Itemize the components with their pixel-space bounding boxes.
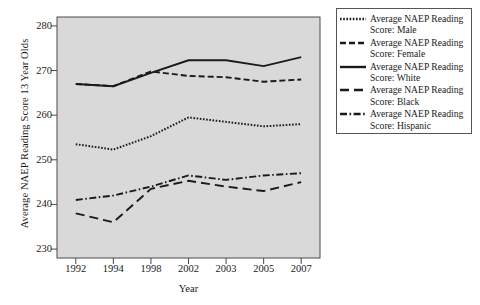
legend-item-male[interactable]: Average NAEP ReadingScore: Male (340, 13, 468, 36)
y-axis-tick-label: 260 (26, 110, 52, 121)
legend-item-label: Average NAEP ReadingScore: Female (370, 37, 463, 60)
chart-figure: Average NAEP Reading Score 13 Year Olds … (0, 0, 480, 305)
legend-item-label: Average NAEP ReadingScore: Black (370, 84, 463, 107)
legend-item-female[interactable]: Average NAEP ReadingScore: Female (340, 37, 468, 60)
legend-line-swatch-icon (340, 16, 366, 28)
legend-line-swatch-icon (340, 64, 366, 76)
legend-item-black[interactable]: Average NAEP ReadingScore: Black (340, 84, 468, 107)
legend-line-swatch-icon (340, 40, 366, 52)
legend-item-hispanic[interactable]: Average NAEP ReadingScore: Hispanic (340, 108, 468, 131)
y-axis-tick-label: 280 (26, 21, 52, 32)
legend-item-white[interactable]: Average NAEP ReadingScore: White (340, 61, 468, 84)
legend-line-swatch-icon (340, 111, 366, 123)
y-axis-tick-label: 250 (26, 155, 52, 166)
legend-line-swatch-icon (340, 87, 366, 99)
chart-legend: Average NAEP ReadingScore: MaleAverage N… (336, 8, 472, 134)
legend-item-label: Average NAEP ReadingScore: Male (370, 13, 463, 36)
y-axis-tick-label: 230 (26, 244, 52, 255)
y-axis-tick-label: 240 (26, 199, 52, 210)
legend-item-label: Average NAEP ReadingScore: White (370, 61, 463, 84)
x-axis-tick-label: 2007 (277, 263, 325, 274)
legend-item-label: Average NAEP ReadingScore: Hispanic (370, 108, 463, 131)
plot-background (57, 17, 320, 258)
y-axis-tick-label: 270 (26, 66, 52, 77)
